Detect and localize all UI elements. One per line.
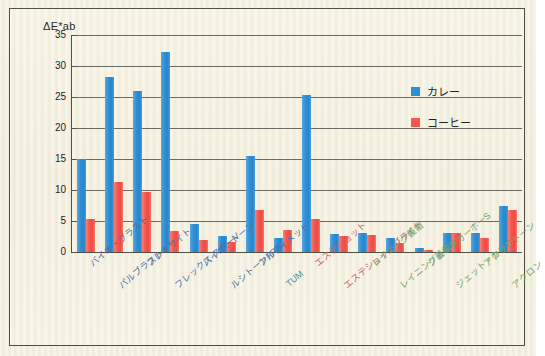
y-axis-tick-label: 30 bbox=[42, 60, 66, 71]
y-axis-tick-label: 0 bbox=[42, 246, 66, 257]
y-axis-tick-label: 20 bbox=[42, 122, 66, 133]
x-axis-label[interactable]: アクロン bbox=[509, 258, 545, 291]
y-axis-tick-mark bbox=[71, 221, 76, 222]
bar-group[interactable] bbox=[72, 35, 100, 252]
bar-group[interactable] bbox=[185, 35, 213, 252]
bar-coffee[interactable] bbox=[367, 235, 376, 252]
y-axis-tick-mark bbox=[71, 35, 76, 36]
y-axis-tick-mark bbox=[71, 66, 76, 67]
legend-swatch-icon bbox=[411, 87, 420, 96]
bar-coffee[interactable] bbox=[480, 238, 489, 252]
legend-label: コーヒー bbox=[427, 114, 471, 130]
bar-coffee[interactable] bbox=[255, 210, 264, 252]
bar-group[interactable] bbox=[100, 35, 128, 252]
bar-curry[interactable] bbox=[105, 77, 114, 252]
bar-curry[interactable] bbox=[246, 156, 255, 252]
bar-group[interactable] bbox=[325, 35, 353, 252]
y-axis-tick-label: 15 bbox=[42, 153, 66, 164]
bar-group[interactable] bbox=[156, 35, 184, 252]
y-axis-tick-mark bbox=[71, 190, 76, 191]
bar-curry[interactable] bbox=[415, 248, 424, 252]
bar-group[interactable] bbox=[269, 35, 297, 252]
bar-coffee[interactable] bbox=[199, 240, 208, 252]
y-axis-tick-mark bbox=[71, 97, 76, 98]
y-axis-tick-mark bbox=[71, 252, 76, 253]
y-axis-tick-label: 5 bbox=[42, 215, 66, 226]
bar-group[interactable] bbox=[494, 35, 522, 252]
legend-label: カレー bbox=[427, 83, 460, 99]
y-axis-tick-labels: 35302520151050 bbox=[38, 35, 66, 252]
y-axis-tick-label: 10 bbox=[42, 184, 66, 195]
bar-curry[interactable] bbox=[190, 224, 199, 252]
chart-frame: ΔE*ab 35302520151050 カレーコーヒー バイオ・ブラストパルブ… bbox=[9, 8, 525, 346]
y-axis-tick-mark bbox=[71, 128, 76, 129]
bar-group[interactable] bbox=[213, 35, 241, 252]
bar-coffee[interactable] bbox=[311, 219, 320, 252]
legend-item[interactable]: カレー bbox=[411, 83, 471, 99]
bar-group[interactable] bbox=[381, 35, 409, 252]
legend-item[interactable]: コーヒー bbox=[411, 114, 471, 130]
legend-swatch-icon bbox=[411, 118, 420, 127]
y-axis-tick-label: 25 bbox=[42, 91, 66, 102]
y-axis-tick-label: 35 bbox=[42, 29, 66, 40]
y-axis-tick-mark bbox=[71, 159, 76, 160]
bar-curry[interactable] bbox=[358, 233, 367, 252]
bar-curry[interactable] bbox=[77, 159, 86, 252]
bar-coffee[interactable] bbox=[86, 219, 95, 252]
bar-curry[interactable] bbox=[161, 52, 170, 252]
chart-legend: カレーコーヒー bbox=[411, 83, 471, 145]
x-axis-line bbox=[71, 252, 522, 253]
x-axis-label[interactable]: TUM bbox=[284, 268, 305, 288]
